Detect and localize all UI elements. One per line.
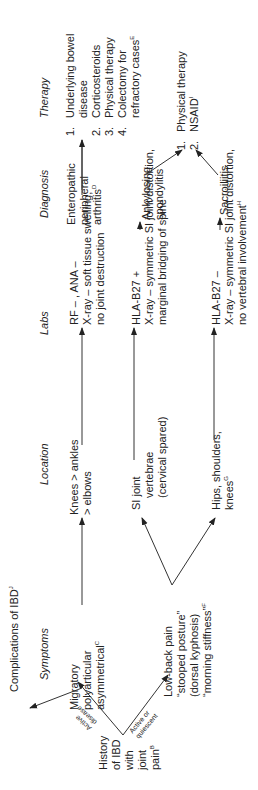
arrow-quiescent-to-lowback — [123, 675, 168, 735]
arrow-active-to-migratory — [78, 682, 123, 735]
flow-arrows — [0, 0, 258, 790]
arrow-sacroiliitis-to-therapy2 — [196, 150, 218, 175]
arrow-lowback-to-hips — [172, 518, 215, 585]
arrow-lowback-to-si — [142, 518, 172, 585]
ibd-arthritis-flowchart: Symptoms Location Labs Diagnosis Therapy… — [0, 0, 258, 790]
arrow-ankylosing-to-therapy2 — [145, 150, 182, 175]
arrow-to-complications — [30, 688, 82, 708]
